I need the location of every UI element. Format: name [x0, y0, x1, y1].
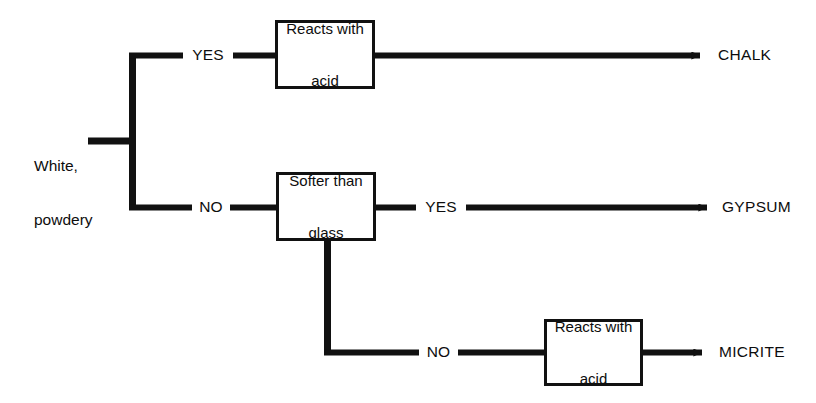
start-node-line-2: powdery: [34, 211, 104, 229]
edge-label-softer-no: NO: [419, 343, 458, 361]
result-chalk: CHALK: [718, 46, 771, 64]
reacts-bottom-line-1: Reacts with: [555, 318, 633, 335]
reacts-top-line-1: Reacts with: [286, 20, 364, 37]
reacts-top-line-2: acid: [286, 72, 364, 89]
reacts-bottom-line-2: acid: [555, 370, 633, 387]
start-node-line-1: White,: [34, 157, 104, 175]
box-text-softer-than-glass: Softer than glass: [277, 173, 375, 240]
box-text-reacts-with-acid-bottom: Reacts with acid: [545, 320, 642, 385]
result-gypsum: GYPSUM: [722, 198, 791, 216]
edge-label-trunk-no: NO: [192, 198, 230, 216]
flowchart-canvas: White, powdery Reacts with acid Softer t…: [0, 0, 816, 403]
softer-line-1: Softer than: [289, 172, 362, 189]
edge-label-softer-yes: YES: [416, 198, 466, 216]
box-text-reacts-with-acid-top: Reacts with acid: [276, 21, 374, 88]
edge-label-top-yes: YES: [183, 46, 233, 64]
flowchart-connectors: [0, 0, 816, 403]
result-micrite: MICRITE: [719, 343, 785, 361]
softer-line-2: glass: [289, 224, 362, 241]
start-node-white-powdery: White, powdery: [34, 120, 104, 266]
